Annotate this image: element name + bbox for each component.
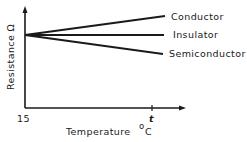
y-axis-label: Resistance Ω	[5, 24, 16, 90]
label-insulator: Insulator	[173, 29, 218, 40]
x-axis-unit: C	[145, 126, 152, 137]
x-tick-label-15: 15	[17, 113, 30, 124]
conductor-line	[25, 16, 165, 35]
label-conductor: Conductor	[171, 11, 224, 22]
x-axis-unit-degree: o	[139, 121, 145, 131]
y-axis-arrow-icon	[23, 6, 28, 13]
x-axis-label: Temperature	[65, 126, 131, 137]
chart: Conductor Insulator Semiconductor 15 t T…	[0, 0, 247, 142]
x-tick-label-t: t	[149, 113, 154, 124]
semiconductor-line	[25, 35, 163, 54]
x-axis-arrow-icon	[179, 106, 186, 111]
label-semiconductor: Semiconductor	[169, 48, 246, 59]
